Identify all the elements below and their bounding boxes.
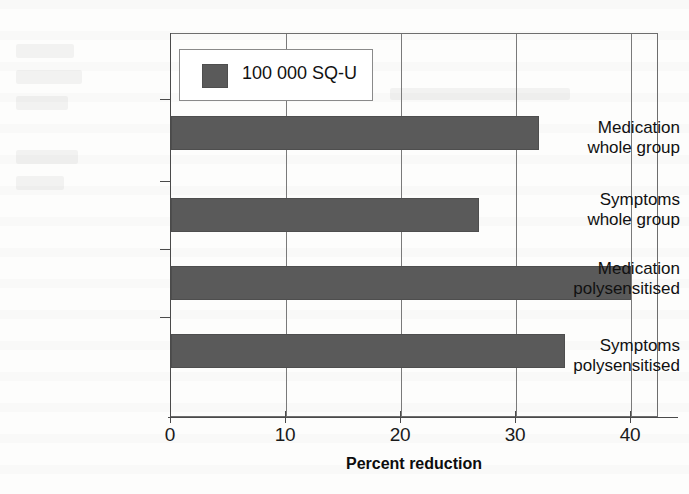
y-label-line-2: whole group (525, 210, 680, 230)
x-tick-label-20: 20 (370, 424, 430, 446)
scan-artifact (16, 70, 82, 84)
x-tick-label-30: 30 (485, 424, 545, 446)
bar-medication-whole-group[interactable] (171, 116, 539, 150)
y-tick-label-symptoms-polysensitised: Symptoms polysensitised (525, 336, 689, 376)
legend-swatch-100000-sq-u (202, 64, 228, 88)
y-label-line-1: Medication (525, 118, 680, 138)
x-axis-title: Percent reduction (170, 455, 658, 473)
x-tick-label-40: 40 (600, 424, 660, 446)
scan-artifact (16, 176, 64, 190)
x-tick-label-0: 0 (140, 424, 200, 446)
x-tick-10 (285, 411, 286, 423)
y-label-line-2: polysensitised (525, 279, 680, 299)
y-tick-2 (160, 181, 171, 182)
x-tick-label-10: 10 (255, 424, 315, 446)
bar-symptoms-polysensitised[interactable] (171, 334, 565, 368)
legend: 100 000 SQ-U (179, 49, 373, 101)
y-label-line-2: polysensitised (525, 356, 680, 376)
y-axis-line (170, 33, 171, 419)
y-label-line-1: Symptoms (525, 190, 680, 210)
y-tick-3 (160, 249, 171, 250)
y-tick-1 (160, 99, 171, 100)
scan-artifact (16, 150, 78, 164)
legend-label-100000-sq-u: 100 000 SQ-U (242, 63, 357, 84)
x-axis-line (168, 417, 678, 418)
scan-artifact (16, 96, 68, 110)
scan-artifact (16, 44, 74, 58)
y-tick-label-medication-polysensitised: Medication polysensitised (525, 259, 689, 299)
y-tick-4 (160, 317, 171, 318)
bar-chart-figure: 100 000 SQ-U Medication whole group Symp… (0, 0, 689, 494)
y-tick-label-medication-whole-group: Medication whole group (525, 118, 689, 158)
x-tick-40 (630, 411, 631, 423)
y-label-line-1: Medication (525, 259, 680, 279)
x-tick-30 (515, 411, 516, 423)
x-tick-20 (400, 411, 401, 423)
y-label-line-1: Symptoms (525, 336, 680, 356)
y-tick-label-symptoms-whole-group: Symptoms whole group (525, 190, 689, 230)
bar-symptoms-whole-group[interactable] (171, 198, 479, 232)
x-tick-0 (170, 411, 171, 423)
y-label-line-2: whole group (525, 138, 680, 158)
